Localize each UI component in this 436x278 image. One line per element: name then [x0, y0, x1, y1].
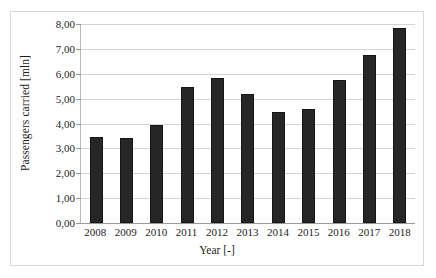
bar-slot [385, 24, 415, 223]
y-axis-tick-label: 6,00 [37, 68, 75, 80]
bar-slot [172, 24, 202, 223]
bar-2018 [393, 28, 406, 223]
bar-slot [81, 24, 111, 223]
bar-slot [294, 24, 324, 223]
bar-2010 [150, 125, 163, 223]
x-axis-tick-label: 2014 [263, 226, 293, 242]
y-axis-tick-label: 4,00 [37, 118, 75, 130]
x-axis-tick-label: 2016 [324, 226, 354, 242]
x-axis-tick-labels: 2008200920102011201220132014201520162017… [80, 226, 415, 242]
x-axis-tick-label: 2010 [141, 226, 171, 242]
y-axis-tickmark [76, 223, 81, 224]
bar-2014 [272, 112, 285, 223]
bar-2008 [90, 137, 103, 223]
y-axis-tick-label: 5,00 [37, 93, 75, 105]
y-axis-tick-label: 8,00 [37, 18, 75, 30]
y-axis-tick-label: 2,00 [37, 167, 75, 179]
bar-slot [263, 24, 293, 223]
x-axis-tick-label: 2012 [202, 226, 232, 242]
x-axis-tick-label: 2017 [354, 226, 384, 242]
x-axis-tick-label: 2008 [80, 226, 110, 242]
bar-slot [233, 24, 263, 223]
x-axis-tick-label: 2011 [171, 226, 201, 242]
y-axis-tick-label: 0,00 [37, 217, 75, 229]
y-axis-tick-label: 7,00 [37, 43, 75, 55]
chart-figure: Passengers carried [mln] 0,001,002,003,0… [10, 11, 424, 266]
y-axis-tick-label: 3,00 [37, 142, 75, 154]
bar-series [81, 24, 415, 223]
y-axis-tick-labels: 0,001,002,003,004,005,006,007,008,00 [37, 12, 75, 265]
bar-2009 [120, 138, 133, 223]
y-axis-title: Passengers carried [mln] [19, 33, 31, 193]
bar-2015 [302, 109, 315, 223]
x-axis-tick-label: 2013 [232, 226, 262, 242]
bar-2011 [181, 87, 194, 223]
bar-2013 [241, 94, 254, 223]
bar-slot [111, 24, 141, 223]
y-axis-tick-label: 1,00 [37, 192, 75, 204]
bar-2016 [333, 80, 346, 223]
bar-slot [202, 24, 232, 223]
gridline [81, 223, 415, 224]
bar-slot [324, 24, 354, 223]
bar-2012 [211, 78, 224, 223]
x-axis-title: Year [-] [11, 244, 423, 256]
x-axis-tick-label: 2015 [293, 226, 323, 242]
x-axis-tick-label: 2009 [110, 226, 140, 242]
x-axis-tick-label: 2018 [385, 226, 415, 242]
bar-slot [354, 24, 384, 223]
plot-area [80, 24, 415, 223]
bar-slot [142, 24, 172, 223]
bar-2017 [363, 55, 376, 223]
